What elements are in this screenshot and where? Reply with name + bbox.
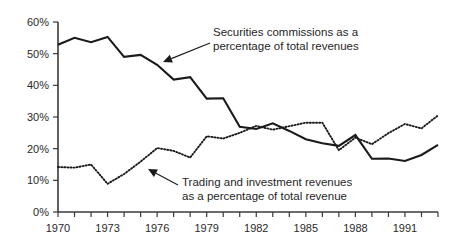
x-tick-label: 1991 (393, 222, 417, 234)
x-tick-label: 1973 (95, 222, 119, 234)
chart-container: 0%10%20%30%40%50%60% 1970197319761979198… (0, 0, 449, 252)
y-tick-label: 10% (27, 174, 49, 186)
x-tick-label: 1988 (343, 222, 367, 234)
line-chart: 0%10%20%30%40%50%60% 1970197319761979198… (0, 0, 449, 252)
series-lines (58, 37, 438, 184)
annotation-label-line1: Securities commissions as a (213, 26, 359, 38)
trading-annotation: Trading and investment revenuesas a perc… (148, 169, 353, 202)
x-axis: 19701973197619791982198519881991 (46, 212, 438, 234)
x-tick-label: 1979 (194, 222, 218, 234)
x-tick-label: 1985 (294, 222, 318, 234)
x-tick-label: 1970 (46, 222, 70, 234)
y-tick-label: 40% (27, 79, 49, 91)
annotation-label-line2: percentage of total revenues (213, 40, 359, 52)
securities-annotation: Securities commissions as apercentage of… (163, 26, 359, 63)
annotation-leader-line (171, 43, 210, 59)
series-line-trading (58, 115, 438, 183)
chart-annotations: Securities commissions as apercentage of… (148, 26, 359, 202)
y-tick-label: 20% (27, 143, 49, 155)
annotation-label-line2: as a percentage of total revenue (182, 190, 347, 202)
y-tick-label: 0% (33, 206, 49, 218)
y-tick-label: 30% (27, 111, 49, 123)
annotation-label-line1: Trading and investment revenues (182, 176, 353, 188)
y-tick-label: 60% (27, 16, 49, 28)
series-line-securities (58, 37, 438, 161)
annotation-leader-line (156, 173, 178, 185)
y-tick-label: 50% (27, 48, 49, 60)
y-axis: 0%10%20%30%40%50%60% (27, 16, 58, 218)
x-tick-label: 1976 (145, 222, 169, 234)
x-tick-label: 1982 (244, 222, 268, 234)
